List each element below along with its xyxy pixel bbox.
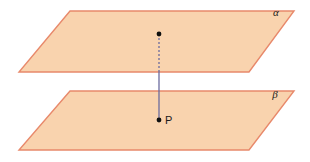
geometry-diagram: α β P	[0, 0, 310, 162]
plane-beta-label: β	[271, 88, 278, 100]
point-p-dot	[157, 118, 162, 123]
geometry-canvas: α β P	[0, 0, 310, 162]
plane-beta	[19, 91, 294, 150]
point-p-label: P	[165, 114, 172, 126]
plane-alpha-label: α	[273, 6, 279, 18]
plane-alpha	[19, 11, 294, 72]
top-point-dot	[157, 32, 162, 37]
